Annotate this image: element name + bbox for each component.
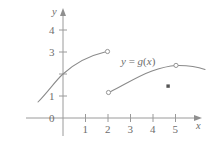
graph-figure: y x 0 4 3 1 1 2 3 4 5 y = g(x)	[0, 0, 211, 142]
open-point-5-crest	[174, 63, 178, 67]
y-axis-arrowhead	[60, 8, 66, 16]
x-tick-label-2: 2	[105, 124, 111, 135]
function-label-paren-close: )	[152, 55, 156, 67]
origin-label: 0	[49, 113, 55, 124]
y-tick-label-3: 3	[49, 47, 55, 58]
y-tick-label-1: 1	[49, 91, 55, 102]
x-tick-label-4: 4	[150, 124, 156, 135]
plot-canvas	[0, 0, 211, 142]
open-point-2-1	[106, 90, 110, 94]
x-tick-label-1: 1	[83, 124, 89, 135]
filled-point-below-curve	[166, 84, 169, 87]
x-tick-label-5: 5	[173, 124, 179, 135]
x-axis-label: x	[196, 121, 201, 132]
open-point-2-3	[105, 49, 109, 53]
curve-right-branch	[110, 65, 205, 92]
y-tick-label-4: 4	[49, 25, 55, 36]
x-tick-label-3: 3	[128, 124, 134, 135]
function-label-equals: =	[126, 55, 138, 67]
y-axis-label: y	[52, 7, 57, 18]
function-label: y = g(x)	[121, 56, 155, 67]
